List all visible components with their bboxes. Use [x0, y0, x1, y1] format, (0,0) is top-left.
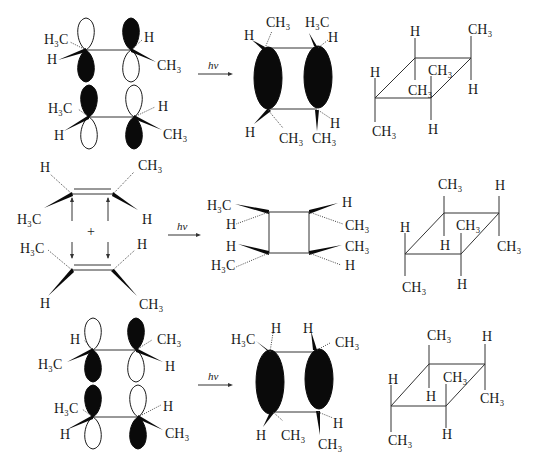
- label-h: H: [165, 359, 175, 374]
- label-ch3: CH₃: [456, 218, 480, 233]
- label-ch3: CH₃: [480, 391, 504, 406]
- row2-top-alkene: H H₃C CH₃ H: [17, 158, 162, 227]
- label-h: H: [495, 178, 505, 193]
- label-h: H: [482, 329, 492, 344]
- label-h: H: [245, 125, 255, 140]
- label-h3c: H₃C: [207, 198, 231, 213]
- label-ch3: CH₃: [266, 15, 290, 30]
- row3-product-perspective: CH₃ H H CH₃ H CH₃ CH₃ H: [388, 328, 504, 448]
- row2-interaction-arrows: +: [70, 197, 110, 259]
- label-ch3: CH₃: [281, 428, 305, 443]
- label-ch3: CH₃: [468, 22, 492, 37]
- label-h: H: [457, 277, 467, 292]
- label-h: H: [440, 238, 450, 253]
- row2-hv-arrow: hv: [168, 220, 201, 237]
- label-h3c: H₃C: [54, 401, 78, 416]
- label-ch3: CH₃: [163, 127, 187, 142]
- row2-product-square: H₃C H H H₃C H CH₃ CH₃ H: [207, 195, 369, 273]
- cycloaddition-diagram: H₃C H H CH₃ H₃C H H CH₃ hv: [0, 0, 535, 471]
- label-ch3: CH₃: [388, 433, 412, 448]
- label-ch3: CH₃: [279, 131, 303, 146]
- label-h: H: [137, 237, 147, 252]
- label-h3c: H₃C: [231, 332, 255, 347]
- label-ch3: CH₃: [335, 335, 359, 350]
- label-ch3: CH₃: [408, 83, 432, 98]
- row3-bottom-alkene: H₃C H H CH₃: [54, 385, 189, 449]
- label-h: H: [345, 258, 355, 273]
- label-h: H: [226, 217, 236, 232]
- label-ch3: CH₃: [438, 177, 462, 192]
- label-h: H: [47, 52, 57, 67]
- label-h: H: [40, 296, 50, 311]
- label-h: H: [144, 30, 154, 45]
- label-h3c: H₃C: [17, 212, 41, 227]
- row3-top-alkene: H H₃C CH₃ H: [38, 318, 181, 382]
- label-ch3: CH₃: [402, 280, 426, 295]
- label-h: H: [54, 128, 64, 143]
- row1-bottom-alkene: H₃C H H CH₃: [48, 85, 187, 149]
- label-h3c: H₃C: [38, 357, 62, 372]
- row1-hv-arrow: hv: [198, 59, 233, 76]
- row1-product-perspective: H CH₃ H CH₃ CH₃ H CH₃ H: [370, 22, 492, 139]
- row3-reactants: H H₃C CH₃ H H₃C H H CH₃: [38, 318, 189, 449]
- label-h3c: H₃C: [305, 15, 329, 30]
- label-ch3: CH₃: [139, 297, 163, 312]
- label-h3c: H₃C: [48, 101, 72, 116]
- label-ch3: CH₃: [157, 58, 181, 73]
- label-ch3: CH₃: [443, 370, 467, 385]
- label-ch3: CH₃: [345, 239, 369, 254]
- row3-hv-arrow: hv: [198, 370, 233, 387]
- label-ch3: CH₃: [427, 328, 451, 343]
- label-h: H: [333, 416, 343, 431]
- label-h: H: [271, 321, 281, 336]
- label-ch3: CH₃: [157, 332, 181, 347]
- row1-reactants: H₃C H H CH₃ H₃C H H CH₃: [44, 18, 187, 149]
- label-h3c: H₃C: [211, 258, 235, 273]
- label-h: H: [330, 116, 340, 131]
- label-ch3: CH₃: [165, 426, 189, 441]
- label-h: H: [342, 195, 352, 210]
- label-h: H: [244, 28, 254, 43]
- label-h: H: [370, 65, 380, 80]
- label-h: H: [426, 389, 436, 404]
- hv-label: hv: [208, 59, 219, 71]
- label-ch3: CH₃: [312, 131, 336, 146]
- label-h: H: [442, 427, 452, 442]
- label-ch3: CH₃: [345, 218, 369, 233]
- hv-label: hv: [208, 370, 219, 382]
- label-ch3: CH₃: [318, 437, 342, 452]
- row2-bottom-alkene: H₃C H H CH₃: [20, 237, 163, 312]
- label-h: H: [328, 30, 338, 45]
- label-h3c: H₃C: [20, 241, 44, 256]
- label-h: H: [410, 24, 420, 39]
- label-h: H: [60, 427, 70, 442]
- row3-product-orbital: H₃C H H CH₃ H CH₃ H CH₃: [231, 321, 359, 452]
- label-ch3: CH₃: [497, 239, 521, 254]
- label-h3c: H₃C: [44, 32, 68, 47]
- label-ch3: CH₃: [428, 63, 452, 78]
- row1-top-alkene: H₃C H H CH₃: [44, 18, 181, 82]
- label-ch3: CH₃: [372, 124, 396, 139]
- label-h: H: [400, 220, 410, 235]
- plus-sign: +: [87, 224, 95, 239]
- label-h: H: [428, 122, 438, 137]
- label-h: H: [303, 321, 313, 336]
- label-h: H: [40, 160, 50, 175]
- row2-product-perspective: CH₃ H H CH₃ H CH₃ CH₃ H: [400, 177, 521, 295]
- label-h: H: [142, 212, 152, 227]
- hv-label: hv: [177, 220, 188, 232]
- label-h: H: [256, 428, 266, 443]
- row1-product-orbital: H CH₃ H₃C H H CH₃ CH₃ H: [244, 15, 340, 146]
- label-h: H: [468, 82, 478, 97]
- label-h: H: [70, 332, 80, 347]
- label-h: H: [226, 239, 236, 254]
- label-ch3: CH₃: [138, 158, 162, 173]
- label-h: H: [388, 372, 398, 387]
- label-h: H: [158, 99, 168, 114]
- row2-reactants: H H₃C CH₃ H + H₃C H H CH₃: [17, 158, 163, 312]
- label-h: H: [163, 399, 173, 414]
